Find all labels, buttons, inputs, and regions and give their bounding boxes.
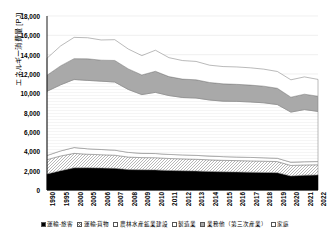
x-axis-tick-label: 2011	[171, 192, 178, 206]
chart-legend: 運輸-旅客運輸-貨物農林水産鉱業建設製造業業務他（第三次産業）家庭	[0, 222, 330, 228]
x-axis-tick-label: 2015	[226, 192, 233, 206]
white-swatch	[113, 222, 118, 227]
y-axis-tick-label: 4,000	[2, 148, 40, 155]
y-axis-tick-label: 10,000	[2, 90, 40, 97]
black-solid-swatch	[41, 222, 46, 227]
x-axis-tick-label: 2018	[266, 192, 273, 206]
x-axis-tick-label: 2016	[239, 192, 246, 206]
x-axis-tick-label: 2000	[77, 192, 84, 206]
gray-swatch	[200, 222, 205, 227]
x-axis-tick-label: 2017	[253, 192, 260, 206]
legend-item[interactable]: 運輸-旅客	[41, 222, 73, 228]
legend-item[interactable]: 業務他（第三次産業）	[200, 222, 267, 228]
legend-item[interactable]: 製造業	[172, 222, 197, 228]
x-axis-tick-label: 2022	[320, 192, 327, 206]
x-axis-tick-label: 2013	[198, 192, 205, 206]
x-axis-tick-label: 2020	[293, 192, 300, 206]
legend-label: 農林水産鉱業建設	[120, 222, 168, 228]
x-axis-tick-label: 2005	[90, 192, 97, 206]
y-axis-tick-label: 16,000	[2, 32, 40, 39]
legend-item[interactable]: 家庭	[271, 222, 290, 228]
x-axis-tick-label: 2009	[144, 192, 151, 206]
x-axis-tick-label: 1995	[63, 192, 70, 206]
legend-item[interactable]: 農林水産鉱業建設	[113, 222, 168, 228]
legend-label: 家庭	[277, 222, 289, 228]
stacked-area-chart: エネルギー消費量 [PJ] 18,00016,00014,00012,00010…	[0, 0, 330, 237]
x-axis-tick-label: 2021	[307, 192, 314, 206]
x-axis-tick-labels: 1990199520002005200620072008200920102011…	[0, 192, 330, 222]
hatched-swatch	[77, 222, 82, 227]
y-axis-tick-label: 12,000	[2, 71, 40, 78]
x-axis-tick-label: 2010	[158, 192, 165, 206]
legend-label: 業務他（第三次産業）	[207, 222, 267, 228]
y-axis-tick-label: 6,000	[2, 129, 40, 136]
x-axis-tick-label: 2019	[280, 192, 287, 206]
x-axis-tick-label: 2008	[131, 192, 138, 206]
legend-label: 運輸-旅客	[47, 222, 73, 228]
x-axis-tick-label: 2006	[104, 192, 111, 206]
legend-label: 運輸-貨物	[84, 222, 110, 228]
x-axis-tick-label: 2014	[212, 192, 219, 206]
white-swatch	[172, 222, 177, 227]
y-axis-tick-label: 2,000	[2, 167, 40, 174]
x-axis-tick-label: 2007	[117, 192, 124, 206]
y-axis-tick-label: 18,000	[2, 13, 40, 20]
white-swatch	[271, 222, 276, 227]
y-axis-tick-label: 8,000	[2, 109, 40, 116]
x-axis-tick-label: 1990	[49, 192, 56, 206]
x-axis-tick-label: 2012	[185, 192, 192, 206]
area-series-layer	[47, 37, 318, 190]
y-axis-tick-label: 14,000	[2, 51, 40, 58]
legend-label: 製造業	[178, 222, 196, 228]
legend-item[interactable]: 運輸-貨物	[77, 222, 109, 228]
